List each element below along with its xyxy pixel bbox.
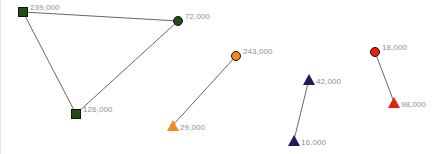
node-value-label: 239,000 xyxy=(30,3,60,12)
node-value-label: 42,000 xyxy=(316,77,341,86)
node-value-label: 126,000 xyxy=(83,105,113,114)
graph-edge xyxy=(23,12,178,21)
square-node-marker-icon[interactable] xyxy=(71,109,81,119)
circle-node-marker-icon[interactable] xyxy=(231,51,241,61)
graph-edge xyxy=(23,12,76,114)
node-value-label: 29,000 xyxy=(180,123,205,132)
square-node-marker-icon[interactable] xyxy=(18,7,28,17)
triangle-node-marker-icon[interactable] xyxy=(167,120,179,131)
circle-node-marker-icon[interactable] xyxy=(173,16,183,26)
graph-edge xyxy=(173,56,236,125)
node-value-label: 16,000 xyxy=(301,138,326,147)
triangle-node-marker-icon[interactable] xyxy=(388,97,400,108)
node-value-label: 18,000 xyxy=(382,43,407,52)
graph-edge xyxy=(76,21,178,114)
circle-node-marker-icon[interactable] xyxy=(370,47,380,57)
graph-canvas[interactable]: 239,00072,000126,000243,00029,00042,0001… xyxy=(0,0,442,154)
triangle-node-marker-icon[interactable] xyxy=(303,74,315,85)
node-value-label: 72,000 xyxy=(185,12,210,21)
node-value-label: 98,000 xyxy=(401,100,426,109)
triangle-node-marker-icon[interactable] xyxy=(288,135,300,146)
node-value-label: 243,000 xyxy=(243,47,273,56)
edge-layer xyxy=(1,0,442,154)
graph-edge xyxy=(375,52,394,102)
graph-edge xyxy=(294,79,309,140)
